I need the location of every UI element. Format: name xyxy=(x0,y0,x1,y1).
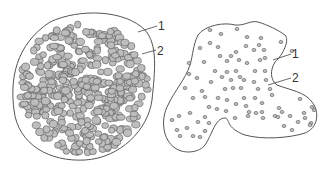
left-panel: 1 2 xyxy=(13,13,165,160)
cell xyxy=(132,104,139,111)
cell xyxy=(31,99,39,106)
cell xyxy=(50,43,58,49)
cell xyxy=(247,110,251,113)
cell xyxy=(70,78,78,85)
cell xyxy=(216,96,220,99)
cell xyxy=(41,97,49,105)
cell xyxy=(280,110,284,113)
cell xyxy=(117,115,126,121)
cell xyxy=(76,113,84,119)
cell xyxy=(238,75,242,78)
left-label-2: 2 xyxy=(157,44,164,58)
cell xyxy=(260,101,264,104)
cell xyxy=(54,108,62,115)
cell xyxy=(132,71,139,78)
cell xyxy=(65,37,73,44)
cell xyxy=(50,35,58,41)
cell xyxy=(279,40,283,43)
cell xyxy=(229,78,233,81)
cell xyxy=(200,89,204,92)
cell xyxy=(202,60,206,63)
cell xyxy=(242,96,246,99)
cell xyxy=(83,84,90,90)
cell xyxy=(260,110,264,113)
cell xyxy=(35,38,43,44)
cell xyxy=(40,52,47,58)
cell xyxy=(213,69,217,72)
cell xyxy=(94,47,101,55)
cell xyxy=(92,117,101,125)
cell xyxy=(233,116,237,119)
cell xyxy=(123,129,131,137)
cell xyxy=(191,96,195,99)
cell xyxy=(259,36,263,39)
cell xyxy=(67,110,74,117)
cell xyxy=(208,28,212,31)
cell xyxy=(252,48,256,51)
cell xyxy=(95,95,103,101)
cell xyxy=(170,118,174,121)
cell xyxy=(225,98,229,101)
cell xyxy=(175,128,179,131)
cell xyxy=(116,85,124,91)
cell xyxy=(198,46,202,49)
cell xyxy=(203,115,207,118)
cell xyxy=(253,69,257,72)
cell xyxy=(198,135,202,138)
cell xyxy=(203,95,207,98)
cell xyxy=(76,149,83,155)
cell xyxy=(53,27,60,34)
left-label-1: 1 xyxy=(158,19,165,33)
cell xyxy=(24,92,31,99)
cell xyxy=(61,30,69,36)
cell xyxy=(242,78,246,81)
cell xyxy=(43,126,50,133)
cell xyxy=(102,123,109,129)
cell xyxy=(268,87,272,90)
cell xyxy=(64,53,72,59)
cell xyxy=(104,68,113,75)
cell xyxy=(203,129,207,132)
cell xyxy=(37,69,45,75)
cell xyxy=(195,76,199,79)
cell xyxy=(234,69,238,72)
cell xyxy=(225,59,229,62)
cell xyxy=(263,56,267,59)
cell xyxy=(26,73,34,80)
cell xyxy=(83,28,90,35)
cell xyxy=(245,61,249,64)
cell xyxy=(20,84,28,90)
cell xyxy=(264,78,268,81)
cell xyxy=(55,142,62,148)
cell xyxy=(121,39,129,46)
cell xyxy=(225,70,229,73)
cell xyxy=(25,112,32,118)
cell xyxy=(298,97,302,100)
cell xyxy=(239,86,243,89)
cell xyxy=(139,73,145,80)
cell xyxy=(188,111,192,114)
cell xyxy=(49,120,57,127)
cell xyxy=(126,60,134,68)
cell xyxy=(95,139,102,145)
cell xyxy=(74,100,82,106)
cell xyxy=(81,127,88,134)
cell xyxy=(94,108,102,114)
cell xyxy=(209,80,213,83)
cell xyxy=(303,116,307,119)
cell xyxy=(231,86,235,89)
cell xyxy=(187,61,191,64)
cell xyxy=(132,121,140,128)
cell xyxy=(48,79,56,85)
cell xyxy=(246,114,250,117)
cell xyxy=(234,50,238,53)
cell xyxy=(276,115,280,118)
cell xyxy=(261,116,265,119)
cell xyxy=(270,93,274,96)
cell xyxy=(252,80,256,83)
diagram-canvas: 1 2 1 2 xyxy=(0,0,335,171)
cell xyxy=(185,126,189,129)
cell xyxy=(183,86,187,89)
cell xyxy=(117,79,124,85)
cell xyxy=(207,105,211,108)
